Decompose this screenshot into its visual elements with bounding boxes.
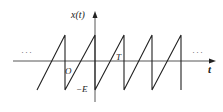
period-label: T (116, 52, 122, 62)
sawtooth-waveform (37, 35, 181, 90)
min-value-label: −E (76, 84, 88, 94)
y-axis-arrow-icon (93, 11, 98, 18)
ellipsis-right: ··· (192, 47, 204, 57)
sawtooth-diagram: x(t) t O T −E ··· ··· (0, 0, 223, 112)
y-axis-label: x(t) (70, 9, 86, 21)
ellipsis-left: ··· (21, 47, 33, 57)
t-axis (13, 59, 216, 64)
origin-label: O (65, 66, 72, 76)
x-axis-label: t (208, 63, 212, 75)
